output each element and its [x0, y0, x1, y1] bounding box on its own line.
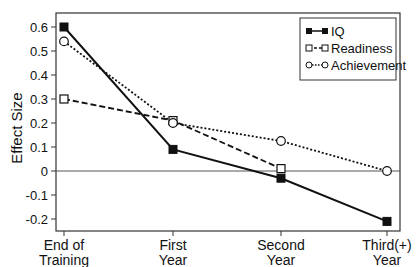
- y-tick-label: 0.4: [30, 68, 48, 83]
- x-tick-label: Year: [159, 252, 188, 267]
- x-tick-label: Second: [257, 237, 304, 253]
- x-tick-label: Year: [373, 252, 402, 267]
- effect-size-line-chart: 0.60.50.40.30.20.10-0.1-0.2 End ofTraini…: [0, 0, 417, 267]
- legend-label: Readiness: [331, 41, 393, 56]
- x-tick-label: Year: [267, 252, 296, 267]
- x-tick-label: First: [159, 237, 186, 253]
- x-tick-label: Training: [39, 252, 89, 267]
- legend-label: IQ: [331, 24, 345, 39]
- series-readiness: [60, 95, 285, 173]
- x-tick-label: End of: [44, 237, 85, 253]
- y-tick-label: -0.1: [26, 188, 48, 203]
- y-axis-label: Effect Size: [8, 92, 25, 163]
- legend: IQReadinessAchievement: [300, 18, 407, 80]
- y-tick-label: 0.2: [30, 116, 48, 131]
- y-tick-label: 0: [41, 164, 48, 179]
- y-tick-label: 0.3: [30, 92, 48, 107]
- y-tick-label: 0.6: [30, 20, 48, 35]
- y-tick-label: -0.2: [26, 212, 48, 227]
- x-axis-ticks: End ofTrainingFirstYearSecondYearThird(+…: [39, 231, 412, 267]
- legend-label: Achievement: [331, 58, 407, 73]
- x-tick-label: Third(+): [362, 237, 411, 253]
- y-axis-ticks: 0.60.50.40.30.20.10-0.1-0.2: [26, 20, 56, 227]
- y-tick-label: 0.5: [30, 44, 48, 59]
- y-tick-label: 0.1: [30, 140, 48, 155]
